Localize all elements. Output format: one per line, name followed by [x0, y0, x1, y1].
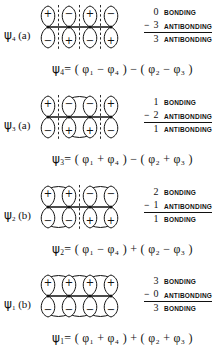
psi-index: 4: [12, 35, 16, 43]
tally-line: 1BONDING: [144, 213, 212, 226]
nucleus-dot: [110, 205, 113, 208]
orbital-phase-sign: +: [107, 277, 115, 288]
equation-rhs: = ( φ₁ − φ₄ ) − ( φ₂ − φ₃ ): [64, 62, 193, 76]
tally-count: 1: [151, 213, 161, 224]
orbital-phase-sign: −: [44, 304, 52, 315]
psi-symbol: ψ: [4, 208, 12, 222]
tally-label: BONDING: [161, 278, 196, 285]
tally-label: BONDING: [161, 99, 196, 106]
molecular-orbital-row: ψ1 (b)+−+−+−+−3BONDING−0ANTIBONDING3BOND…: [0, 269, 224, 359]
orbital-phase-sign: +: [65, 188, 73, 199]
tally-label: ANTIBONDING: [161, 292, 212, 299]
orbital-phase-sign: +: [44, 98, 52, 109]
nucleus-dot: [110, 295, 113, 298]
nucleus-dot: [47, 115, 50, 118]
psi-symbol: ψ: [4, 297, 12, 311]
equation-lhs: ψ1: [52, 331, 64, 345]
wavefunction-equation: ψ4= ( φ₁ − φ₄ ) − ( φ₂ − φ₃ ): [52, 62, 193, 77]
orbital-phase-sign: +: [44, 188, 52, 199]
nucleus-dot: [89, 26, 92, 29]
orbital-diagram: +−+−+−+−: [38, 272, 138, 326]
bond-tally: 2BONDING−1ANTIBONDING1BONDING: [144, 186, 212, 226]
orbital-array: +−+−−+−+: [38, 183, 138, 233]
nucleus-dot: [68, 115, 71, 118]
tally-count: 1: [151, 123, 161, 134]
orbital-phase-sign: −: [107, 188, 115, 199]
orbital-phase-sign: −: [44, 215, 52, 226]
orbital-phase-sign: +: [65, 35, 73, 46]
symmetry-label: (b): [18, 298, 31, 310]
nucleus-dot: [68, 295, 71, 298]
tally-count: 3: [151, 33, 161, 44]
tally-line: 0BONDING: [144, 6, 212, 19]
tally-label: ANTIBONDING: [161, 36, 212, 43]
tally-count: 0: [151, 6, 161, 17]
orbital-phase-sign: +: [107, 35, 115, 46]
bond-tally: 0BONDING−3ANTIBONDING3ANTIBONDING: [144, 6, 212, 46]
equation-rhs: = ( φ₁ + φ₄ ) − ( φ₂ + φ₃ ): [64, 152, 193, 166]
orbital-phase-sign: +: [44, 8, 52, 19]
orbital-phase-sign: −: [107, 8, 115, 19]
tally-operator: −: [144, 110, 151, 120]
tally-label: ANTIBONDING: [161, 203, 212, 210]
orbital-phase-sign: +: [86, 8, 94, 19]
symmetry-label: (a): [18, 119, 30, 131]
tally-label: ANTIBONDING: [161, 113, 212, 120]
orbital-array: +−+−+−+−: [38, 272, 138, 322]
tally-count: 3: [151, 275, 161, 286]
tally-line: 3ANTIBONDING: [144, 33, 212, 46]
bond-tally: 1BONDING−2ANTIBONDING1ANTIBONDING: [144, 96, 212, 136]
tally-count: 1: [151, 199, 161, 210]
nucleus-dot: [89, 205, 92, 208]
symmetry-label: (a): [18, 29, 30, 41]
orbital-name-label: ψ3 (a): [4, 118, 30, 133]
tally-line: 2BONDING: [144, 186, 212, 199]
equation-rhs: = ( φ₁ + φ₄ ) + ( φ₂ + φ₃ ): [64, 331, 193, 345]
orbital-phase-sign: −: [65, 8, 73, 19]
tally-count: 2: [151, 109, 161, 120]
tally-line: 3BONDING: [144, 302, 212, 315]
wavefunction-equation: ψ3= ( φ₁ + φ₄ ) − ( φ₂ + φ₃ ): [52, 152, 193, 167]
orbital-array: +−−+−++−: [38, 93, 138, 143]
tally-line: −1ANTIBONDING: [144, 199, 212, 213]
orbital-name-label: ψ4 (a): [4, 28, 30, 43]
orbital-diagram: +−+−−+−+: [38, 183, 138, 237]
molecular-orbital-row: ψ3 (a)+−−+−++−1BONDING−2ANTIBONDING1ANTI…: [0, 90, 224, 180]
orbital-phase-sign: +: [107, 98, 115, 109]
tally-count: 3: [151, 302, 161, 313]
psi-index: 3: [12, 125, 16, 133]
nucleus-dot: [110, 115, 113, 118]
tally-label: BONDING: [161, 9, 196, 16]
orbital-phase-sign: −: [107, 125, 115, 136]
orbital-phase-sign: +: [86, 125, 94, 136]
orbital-phase-sign: −: [65, 304, 73, 315]
equation-lhs: ψ4: [52, 62, 64, 76]
tally-count: 1: [151, 96, 161, 107]
tally-line: 3BONDING: [144, 275, 212, 288]
nucleus-dot: [89, 295, 92, 298]
psi-index: 1: [12, 304, 16, 312]
tally-count: 0: [151, 288, 161, 299]
tally-operator: −: [144, 20, 151, 30]
orbital-phase-sign: −: [86, 35, 94, 46]
orbital-phase-sign: −: [86, 188, 94, 199]
tally-operator: −: [144, 200, 151, 210]
nucleus-dot: [68, 26, 71, 29]
nucleus-dot: [47, 26, 50, 29]
symmetry-label: (b): [18, 209, 31, 221]
molecular-orbital-row: ψ4 (a)+−−++−−+0BONDING−3ANTIBONDING3ANTI…: [0, 0, 224, 90]
orbital-phase-sign: +: [65, 125, 73, 136]
nucleus-dot: [110, 26, 113, 29]
tally-count: 2: [151, 186, 161, 197]
psi-symbol: ψ: [4, 118, 12, 132]
tally-label: BONDING: [161, 189, 196, 196]
orbital-diagram: +−−++−−+: [38, 3, 138, 57]
tally-line: −3ANTIBONDING: [144, 19, 212, 33]
tally-label: ANTIBONDING: [161, 126, 212, 133]
wavefunction-equation: ψ1= ( φ₁ + φ₄ ) + ( φ₂ + φ₃ ): [52, 331, 193, 346]
tally-label: BONDING: [161, 305, 196, 312]
orbital-phase-sign: −: [65, 98, 73, 109]
nucleus-dot: [47, 295, 50, 298]
orbital-phase-sign: +: [86, 215, 94, 226]
orbital-phase-sign: −: [44, 125, 52, 136]
